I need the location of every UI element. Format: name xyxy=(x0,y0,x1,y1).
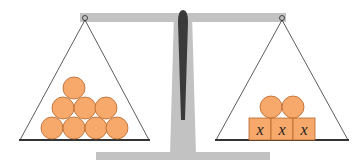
left-balls xyxy=(41,77,128,139)
box-label: x xyxy=(277,121,285,138)
box-label: x xyxy=(299,121,307,138)
right-pan: x x x xyxy=(215,16,349,141)
right-balls xyxy=(260,96,304,118)
balance-scale-diagram: x x x xyxy=(0,0,358,166)
box-label: x xyxy=(255,121,263,138)
left-pan xyxy=(19,16,150,141)
